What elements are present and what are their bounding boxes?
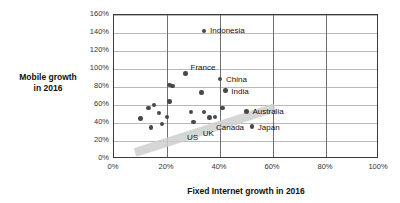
gridline-horizontal [114, 123, 377, 124]
y-tick-label: 80% [73, 82, 109, 90]
data-point-china [218, 77, 222, 81]
gridline-vertical [220, 15, 221, 157]
point-label-japan: Japan [258, 123, 280, 132]
annotation-us: US [187, 133, 198, 142]
x-tick-label: 60% [252, 163, 292, 171]
point-label-china: China [226, 75, 247, 84]
data-point [157, 111, 161, 115]
data-point [191, 120, 195, 124]
data-point [138, 116, 142, 120]
gridline-vertical [326, 15, 327, 157]
data-point [207, 115, 211, 119]
annotation-uk: UK [203, 129, 214, 138]
data-point [152, 103, 156, 107]
y-tick-label: 140% [73, 28, 109, 36]
x-axis-title: Fixed Internet growth in 2016 [113, 186, 379, 196]
data-point-japan [250, 124, 254, 128]
x-tick-label: 100% [358, 163, 398, 171]
plot-area: FranceIndonesiaChinaIndiaAustraliaJapanU… [113, 14, 378, 158]
data-point-australia [244, 109, 248, 113]
gridline-horizontal [114, 33, 377, 34]
data-point [220, 106, 224, 110]
point-label-australia: Australia [253, 107, 284, 116]
gridline-horizontal [114, 15, 377, 16]
data-point [165, 115, 169, 119]
y-tick-label: 60% [73, 100, 109, 108]
point-label-indonesia: Indonesia [210, 26, 245, 35]
y-tick-label: 20% [73, 136, 109, 144]
scatter-chart-figure: Mobile growth in 2016 Fixed Internet gro… [0, 0, 400, 203]
point-label-india: India [231, 87, 248, 96]
data-point [199, 90, 203, 94]
x-tick-label: 20% [146, 163, 186, 171]
annotation-canada: Canada [216, 123, 244, 132]
y-tick-label: 160% [73, 10, 109, 18]
y-tick-label: 100% [73, 64, 109, 72]
data-point-france [183, 71, 187, 75]
data-point [170, 84, 174, 88]
plot-inner: FranceIndonesiaChinaIndiaAustraliaJapanU… [114, 15, 377, 157]
x-tick-label: 80% [305, 163, 345, 171]
data-point [189, 110, 193, 114]
data-point [202, 110, 206, 114]
y-tick-label: 0% [73, 154, 109, 162]
data-point-india [223, 88, 227, 92]
point-label-france: France [191, 63, 216, 72]
data-point [213, 115, 217, 119]
y-tick-label: 120% [73, 46, 109, 54]
gridline-horizontal [114, 51, 377, 52]
y-tick-label: 40% [73, 118, 109, 126]
data-point [146, 106, 150, 110]
data-point [149, 125, 153, 129]
data-point [167, 99, 171, 103]
gridline-vertical [273, 15, 274, 157]
x-tick-label: 0% [93, 163, 133, 171]
data-point [160, 122, 164, 126]
x-tick-label: 40% [199, 163, 239, 171]
gridline-horizontal [114, 69, 377, 70]
